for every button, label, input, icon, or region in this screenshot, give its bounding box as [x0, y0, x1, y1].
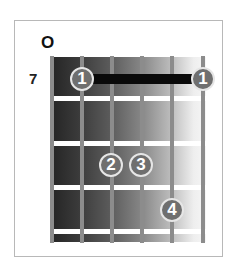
- finger-marker: 1: [70, 67, 94, 91]
- finger-marker: 2: [99, 153, 123, 177]
- finger-marker: 4: [160, 198, 184, 222]
- fret-line-4: [50, 229, 206, 234]
- finger-marker: 3: [129, 153, 153, 177]
- finger-marker: 1: [191, 67, 215, 91]
- string-4: [140, 56, 144, 243]
- fret-line-2: [50, 141, 206, 146]
- start-fret-label: 7: [29, 71, 37, 86]
- string-1: [50, 56, 54, 243]
- open-string-marker: O: [41, 34, 54, 51]
- string-3: [110, 56, 114, 243]
- fret-line-1: [50, 96, 206, 101]
- fret-line-3: [50, 185, 206, 190]
- barre-bar: [92, 74, 192, 84]
